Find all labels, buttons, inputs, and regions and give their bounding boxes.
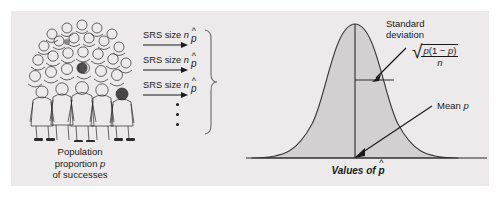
right-brace-icon — [203, 28, 219, 140]
srs-arrow-3-label: SRS size n — [143, 80, 189, 90]
mean-label: Mean p — [437, 100, 469, 111]
standard-deviation-formula: √ p(1 − p) n — [412, 44, 458, 68]
formula-numerator: p(1 − p) — [421, 45, 458, 56]
arrow-right-icon — [143, 41, 189, 49]
population-caption: Population proportion p of successes — [10, 146, 150, 181]
srs-arrow-1-label: SRS size n — [143, 30, 189, 40]
crowd-illustration — [22, 16, 142, 142]
normal-curve-chart — [246, 14, 492, 170]
sampling-distribution-figure: Population proportion p of successes SRS… — [0, 0, 502, 208]
arrow-right-icon — [143, 66, 189, 74]
population-caption-line-1: Population — [10, 146, 150, 158]
srs-result-2: p — [191, 58, 197, 69]
population-proportion-symbol: p — [100, 158, 105, 169]
dot — [176, 123, 179, 126]
formula-denominator: n — [421, 56, 458, 68]
standard-deviation-label: Standard deviation — [386, 18, 425, 40]
dot — [176, 103, 179, 106]
srs-result-3: p — [191, 83, 197, 94]
dot — [176, 113, 179, 116]
arrow-right-icon — [143, 91, 189, 99]
population-caption-line-2: proportion p — [10, 158, 150, 170]
x-axis-label: Values of p — [288, 165, 428, 176]
continuation-dots — [176, 103, 179, 133]
p-hat-symbol: p — [378, 165, 384, 176]
sd-leader-line — [376, 48, 406, 78]
formula-fraction: p(1 − p) n — [421, 44, 458, 68]
population-caption-line-3: of successes — [10, 169, 150, 181]
srs-result-1: p — [191, 33, 197, 44]
srs-arrow-2-label: SRS size n — [143, 55, 189, 65]
